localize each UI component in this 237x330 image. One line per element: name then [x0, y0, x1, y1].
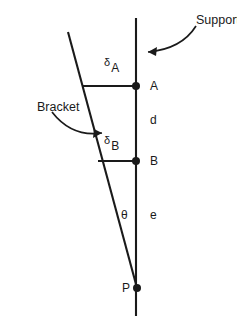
point-label-b: B	[150, 155, 158, 167]
delta-subscript-a: A	[111, 61, 119, 75]
point-marker-a	[132, 82, 140, 90]
deflection-label-b: δB	[104, 135, 119, 153]
point-marker-p	[133, 284, 141, 292]
dimension-label-d: d	[150, 114, 157, 126]
bracket-callout-label: Bracket	[37, 101, 79, 114]
point-label-p: P	[122, 282, 130, 294]
deflection-label-a: δA	[104, 57, 119, 75]
delta-symbol-a: δ	[104, 56, 110, 68]
diagram-canvas	[0, 0, 237, 330]
angle-label-theta: θ	[121, 209, 128, 221]
delta-subscript-b: B	[111, 139, 119, 153]
point-marker-b	[132, 157, 140, 165]
bracket-support-diagram: Support Bracket A B P d e θ δA δB	[0, 0, 237, 330]
support-callout-arrowhead	[148, 47, 157, 56]
point-label-a: A	[150, 80, 158, 92]
delta-symbol-b: δ	[104, 134, 110, 146]
support-callout-label: Support	[196, 14, 237, 27]
dimension-label-e: e	[150, 209, 157, 221]
bracket-callout-arrowhead	[93, 129, 102, 138]
